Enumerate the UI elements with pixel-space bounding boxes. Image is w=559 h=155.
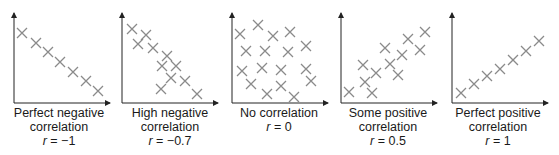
cross-marker-icon	[268, 31, 278, 41]
cross-marker-icon	[192, 89, 202, 99]
caption-title-line2: correlation	[333, 120, 443, 134]
cross-marker-icon	[380, 43, 390, 53]
cross-marker-icon	[482, 71, 492, 81]
r-value-label: r = −0.7	[115, 134, 225, 148]
cross-marker-icon	[93, 86, 103, 96]
caption-perfect-positive: Perfect positive correlation r = 1	[443, 106, 553, 148]
cross-marker-icon	[283, 47, 293, 57]
cross-marker-icon	[301, 41, 311, 51]
cross-marker-icon	[127, 24, 137, 34]
scatter-panel-high-negative	[122, 13, 218, 103]
cross-marker-icon	[241, 46, 251, 56]
cross-marker-icon	[385, 59, 395, 69]
r-value-label: r = −1	[4, 134, 114, 148]
cross-marker-icon	[306, 76, 316, 86]
cross-marker-icon	[31, 38, 41, 48]
cross-marker-icon	[358, 60, 368, 70]
caption-title-line2: correlation	[115, 120, 225, 134]
cross-marker-icon	[360, 77, 370, 87]
cross-marker-icon	[508, 55, 518, 65]
cross-marker-icon	[403, 34, 413, 44]
cross-marker-icon	[344, 87, 354, 97]
cross-marker-icon	[235, 29, 245, 39]
caption-title-line1: High negative	[115, 106, 225, 120]
cross-marker-icon	[420, 27, 430, 37]
cross-marker-icon	[166, 73, 176, 83]
cross-marker-icon	[285, 27, 295, 37]
cross-marker-icon	[257, 63, 267, 73]
caption-title-line1: No correlation	[224, 106, 334, 120]
caption-some-positive: Some positive correlation r = 0.5	[333, 106, 443, 148]
r-value-label: r = 1	[443, 134, 553, 148]
cross-marker-icon	[156, 84, 166, 94]
caption-title-line1: Perfect negative	[4, 106, 114, 120]
cross-marker-icon	[397, 50, 407, 60]
scatter-panel-some-positive	[341, 13, 437, 103]
cross-marker-icon	[253, 20, 263, 30]
cross-marker-icon	[246, 79, 256, 89]
cross-marker-icon	[260, 46, 270, 56]
cross-marker-icon	[68, 67, 78, 77]
cross-marker-icon	[289, 92, 299, 102]
cross-marker-icon	[415, 45, 425, 55]
cross-marker-icon	[43, 47, 53, 57]
caption-title-line2: correlation	[4, 120, 114, 134]
cross-marker-icon	[534, 36, 544, 46]
cross-marker-icon	[371, 68, 381, 78]
cross-marker-icon	[393, 70, 403, 80]
cross-marker-icon	[162, 51, 172, 61]
caption-title-line1: Some positive	[333, 106, 443, 120]
cross-marker-icon	[180, 76, 190, 86]
r-value-label: r = 0.5	[333, 134, 443, 148]
cross-marker-icon	[55, 57, 65, 67]
cross-marker-icon	[148, 43, 158, 53]
cross-marker-icon	[469, 79, 479, 89]
cross-marker-icon	[276, 65, 286, 75]
cross-marker-icon	[301, 64, 311, 74]
r-value-label: r = 0	[224, 120, 334, 134]
scatter-panel-no-correlation	[232, 13, 328, 103]
cross-marker-icon	[81, 76, 91, 86]
cross-marker-icon	[521, 46, 531, 56]
cross-marker-icon	[141, 30, 151, 40]
cross-marker-icon	[367, 88, 377, 98]
scatter-panel-perfect-positive	[452, 13, 548, 103]
cross-marker-icon	[495, 64, 505, 74]
caption-high-negative: High negative correlation r = −0.7	[115, 106, 225, 148]
cross-marker-icon	[157, 61, 167, 71]
caption-no-correlation: No correlation r = 0	[224, 106, 334, 134]
cross-marker-icon	[276, 81, 286, 91]
cross-marker-icon	[171, 61, 181, 71]
cross-marker-icon	[17, 28, 27, 38]
cross-marker-icon	[262, 89, 272, 99]
scatter-panel-perfect-negative	[14, 13, 110, 103]
cross-marker-icon	[237, 66, 247, 76]
cross-marker-icon	[133, 39, 143, 49]
caption-perfect-negative: Perfect negative correlation r = −1	[4, 106, 114, 148]
cross-marker-icon	[456, 88, 466, 98]
caption-title-line2: correlation	[443, 120, 553, 134]
caption-title-line1: Perfect positive	[443, 106, 553, 120]
